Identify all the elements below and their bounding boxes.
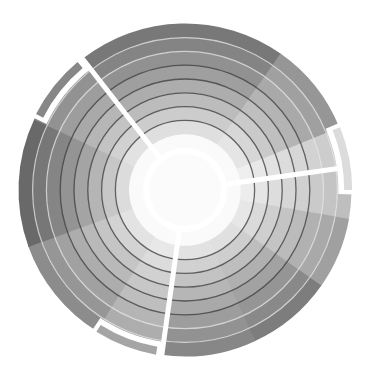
- radial-diagram: [0, 0, 369, 384]
- sector-right-ring-4: [281, 175, 297, 210]
- center-hub: [149, 154, 221, 226]
- sector-right-ring-3: [267, 176, 282, 207]
